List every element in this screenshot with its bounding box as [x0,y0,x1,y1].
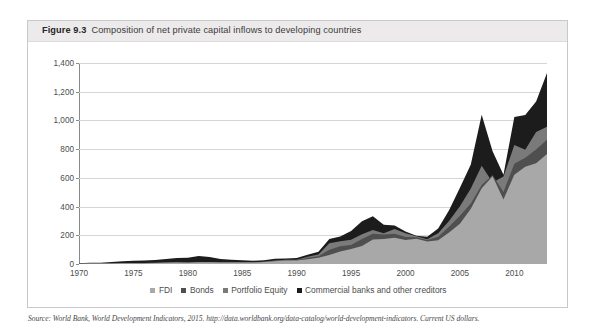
figure-page: Figure 9.3Composition of net private cap… [0,0,595,336]
legend-swatch-icon [150,288,155,293]
y-tick-label: 200 [60,231,74,240]
legend-item[interactable]: Portfolio Equity [223,285,288,295]
x-tick-label: 2000 [396,269,414,278]
y-tick-label: 600 [60,173,74,182]
x-tick-label: 1970 [70,269,88,278]
y-tick-label: 1,400 [54,59,75,68]
legend-label: Bonds [190,285,214,295]
x-tick-label: 1980 [179,269,197,278]
x-tick-label: 2010 [505,269,523,278]
legend-item[interactable]: Commercial banks and other creditors [297,285,447,295]
x-tick-label: 1995 [342,269,360,278]
figure-title-text: Composition of net private capital inflo… [91,25,361,35]
y-tick-label: 1,000 [54,116,75,125]
x-tick-label: 1985 [233,269,251,278]
figure-title: Figure 9.3Composition of net private cap… [42,25,362,35]
y-tick-label: 800 [60,145,74,154]
stacked-area-chart [79,63,547,264]
y-tick-label: 0 [69,260,74,269]
figure-number: Figure 9.3 [42,25,86,35]
legend-swatch-icon [223,288,228,293]
figure-card: Figure 9.3Composition of net private cap… [27,20,568,308]
source-note: Source: World Bank, World Development In… [28,314,573,323]
legend-label: Portfolio Equity [231,285,287,295]
chart-plot-area: 02004006008001,0001,2001,400 19701975198… [79,63,547,264]
legend-swatch-icon [297,288,302,293]
chart-legend: FDIBondsPortfolio EquityCommercial banks… [28,285,569,295]
y-tick-mark [76,264,79,265]
x-tick-label: 1990 [288,269,306,278]
y-tick-label: 1,200 [54,87,75,96]
y-tick-label: 400 [60,202,74,211]
x-tick-label: 2005 [451,269,469,278]
legend-label: FDI [159,285,173,295]
legend-label: Commercial banks and other creditors [305,285,447,295]
legend-item[interactable]: FDI [150,285,172,295]
legend-item[interactable]: Bonds [181,285,213,295]
legend-swatch-icon [181,288,186,293]
x-tick-label: 1975 [124,269,142,278]
